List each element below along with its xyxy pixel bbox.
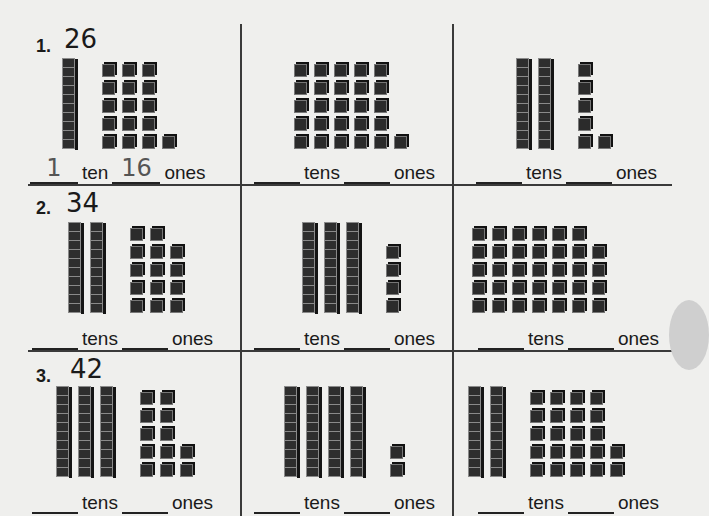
ones-answer-field[interactable] <box>344 160 390 184</box>
tens-answer-field[interactable] <box>476 160 522 184</box>
ten-rod-icon <box>68 222 81 313</box>
one-cube-icon <box>314 118 327 131</box>
one-cube-icon <box>592 282 605 295</box>
one-cube-icon <box>570 428 583 441</box>
one-cube-icon <box>578 64 591 77</box>
one-cube-icon <box>386 264 399 277</box>
one-cube-icon <box>160 446 173 459</box>
one-cube-icon <box>386 282 399 295</box>
ten-rod-icon <box>56 386 69 477</box>
tens-answer-field[interactable] <box>478 326 524 350</box>
one-cube-icon <box>492 282 505 295</box>
ones-label: ones <box>394 162 435 184</box>
ones-answer-field[interactable] <box>122 326 168 350</box>
one-cube-icon <box>492 264 505 277</box>
one-cube-icon <box>130 246 143 259</box>
one-cube-icon <box>394 136 407 149</box>
tens-label: tens <box>304 162 340 184</box>
one-cube-icon <box>294 82 307 95</box>
answer-row: tens ones <box>32 490 217 514</box>
one-cube-icon <box>512 264 525 277</box>
one-cube-icon <box>294 118 307 131</box>
one-cube-icon <box>572 282 585 295</box>
one-cube-icon <box>590 392 603 405</box>
ones-answer-field[interactable] <box>568 490 614 514</box>
one-cube-icon <box>374 82 387 95</box>
one-cube-icon <box>492 246 505 259</box>
ten-rod-icon <box>90 222 103 313</box>
ones-answer-field[interactable] <box>344 326 390 350</box>
ten-rod-icon <box>328 386 341 477</box>
grid-divider <box>240 24 242 516</box>
one-cube-icon <box>160 392 173 405</box>
one-cube-icon <box>130 282 143 295</box>
target-number: 34 <box>66 188 99 218</box>
one-cube-icon <box>572 300 585 313</box>
one-cube-icon <box>140 392 153 405</box>
one-cube-icon <box>550 392 563 405</box>
answer-row: tens ones <box>478 490 663 514</box>
ones-answer-field[interactable]: 16 <box>112 160 160 184</box>
tens-label: tens <box>528 328 564 350</box>
tens-answer-field[interactable] <box>254 326 300 350</box>
one-cube-icon <box>550 428 563 441</box>
ten-rod-icon <box>516 58 529 149</box>
answer-row: 1 ten 16 ones <box>30 160 210 184</box>
one-cube-icon <box>592 300 605 313</box>
one-cube-icon <box>374 136 387 149</box>
one-cube-icon <box>572 228 585 241</box>
tens-answer-field[interactable] <box>254 490 300 514</box>
one-cube-icon <box>142 82 155 95</box>
one-cube-icon <box>130 264 143 277</box>
tens-answer-field[interactable] <box>254 160 300 184</box>
ten-rod-icon <box>468 386 481 477</box>
tens-answer-field[interactable]: 1 <box>30 160 78 184</box>
ten-rod-icon <box>302 222 315 313</box>
one-cube-icon <box>552 228 565 241</box>
one-cube-icon <box>102 100 115 113</box>
one-cube-icon <box>386 300 399 313</box>
one-cube-icon <box>140 446 153 459</box>
ones-answer-field[interactable] <box>122 490 168 514</box>
answer-row: tens ones <box>478 326 663 350</box>
one-cube-icon <box>150 300 163 313</box>
one-cube-icon <box>334 136 347 149</box>
ones-label: ones <box>394 328 435 350</box>
tens-answer-field[interactable] <box>32 326 78 350</box>
page-tab-marker <box>669 300 709 370</box>
one-cube-icon <box>530 446 543 459</box>
one-cube-icon <box>570 392 583 405</box>
ones-answer-field[interactable] <box>344 490 390 514</box>
one-cube-icon <box>122 118 135 131</box>
ones-answer-field[interactable] <box>566 160 612 184</box>
one-cube-icon <box>472 282 485 295</box>
one-cube-icon <box>552 264 565 277</box>
one-cube-icon <box>160 464 173 477</box>
ones-answer-field[interactable] <box>568 326 614 350</box>
one-cube-icon <box>130 300 143 313</box>
grid-divider <box>28 184 672 186</box>
tens-answer-field[interactable] <box>32 490 78 514</box>
tens-label: ten <box>82 162 108 184</box>
one-cube-icon <box>570 446 583 459</box>
ten-rod-icon <box>350 386 363 477</box>
one-cube-icon <box>162 136 175 149</box>
ones-label: ones <box>172 328 213 350</box>
one-cube-icon <box>512 246 525 259</box>
one-cube-icon <box>590 410 603 423</box>
problem-number: 3. <box>36 366 51 387</box>
one-cube-icon <box>354 118 367 131</box>
tens-label: tens <box>82 492 118 514</box>
ones-label: ones <box>172 492 213 514</box>
one-cube-icon <box>150 264 163 277</box>
one-cube-icon <box>354 64 367 77</box>
one-cube-icon <box>572 246 585 259</box>
ten-rod-icon <box>324 222 337 313</box>
one-cube-icon <box>122 64 135 77</box>
handwritten-answer: 16 <box>112 154 160 182</box>
one-cube-icon <box>374 100 387 113</box>
tens-label: tens <box>304 328 340 350</box>
tens-answer-field[interactable] <box>478 490 524 514</box>
one-cube-icon <box>374 118 387 131</box>
one-cube-icon <box>572 264 585 277</box>
